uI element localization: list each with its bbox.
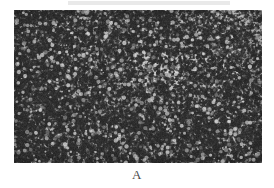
scan-artifact-band <box>68 1 230 5</box>
panel-label: A <box>0 167 274 183</box>
micrograph-image <box>14 10 262 163</box>
figure-panel-a <box>14 10 262 163</box>
micrograph-canvas <box>14 10 262 163</box>
